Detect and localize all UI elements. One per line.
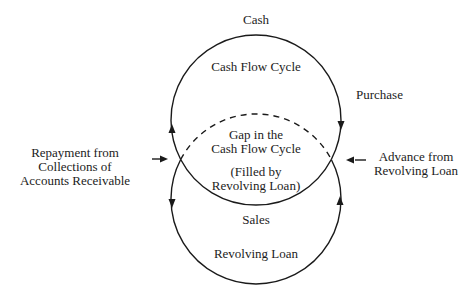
arrow-up-right-bottom-icon [337,196,344,205]
cash-flow-cycle-label: Cash Flow Cycle [196,60,316,74]
repayment-line-2: Collections of [0,160,150,174]
filled-label: (Filled by Revolving Loan) [196,165,316,193]
repayment-line-3: Accounts Receivable [0,174,150,188]
repayment-arrow-head-icon [160,156,168,163]
advance-arrow-head-icon [346,157,354,164]
advance-label: Advance from Revolving Loan [357,150,475,178]
sales-label: Sales [226,213,286,227]
repayment-label: Repayment from Collections of Accounts R… [0,146,150,188]
advance-line-2: Revolving Loan [357,164,475,178]
gap-label: Gap in the Cash Flow Cycle [196,128,316,156]
arrow-down-left-bottom-icon [169,199,176,208]
cash-label: Cash [236,13,276,27]
arrow-down-right-top-icon [338,121,345,130]
filled-line-1: (Filled by [196,165,316,179]
arrow-up-left-top-icon [169,124,176,133]
gap-line-2: Cash Flow Cycle [196,142,316,156]
revolving-loan-label: Revolving Loan [196,247,316,261]
purchase-label: Purchase [356,88,426,102]
advance-line-1: Advance from [357,150,475,164]
repayment-line-1: Repayment from [0,146,150,160]
filled-line-2: Revolving Loan) [196,179,316,193]
gap-line-1: Gap in the [196,128,316,142]
